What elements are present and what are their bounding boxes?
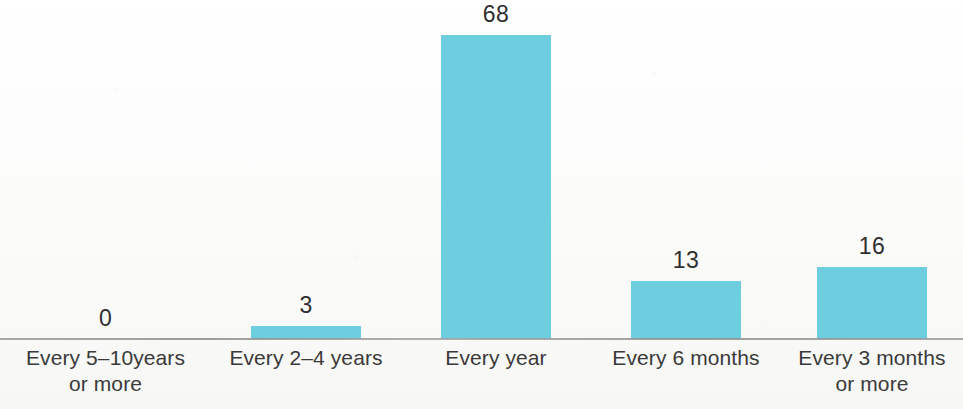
category-label-line2: or more	[0, 371, 211, 397]
category-label: Every 5–10years or more	[0, 345, 211, 397]
bar-chart: 0 3 68 13 16 Every 5–10years or more Eve…	[0, 0, 963, 409]
bar-value-label: 13	[673, 249, 699, 272]
category-label: Every 2–4 years	[211, 345, 401, 371]
bar-value-label: 16	[859, 235, 885, 258]
plot-area: 0 3 68 13 16	[0, 0, 963, 339]
category-label-line1: Every 6 months	[612, 346, 759, 369]
category-label-line1: Every 3 months	[798, 346, 945, 369]
category-label-line1: Every 5–10years	[26, 346, 185, 369]
category-label: Every 3 months or more	[781, 345, 963, 397]
bar-value-label: 0	[99, 307, 112, 330]
bar-slot: 3	[211, 0, 401, 339]
bar-slot: 16	[781, 0, 963, 339]
x-axis-line	[0, 338, 963, 340]
category-label: Every 6 months	[591, 345, 781, 371]
bar[interactable]	[441, 35, 551, 339]
category-label-line2: or more	[781, 371, 963, 397]
bar[interactable]	[817, 267, 927, 339]
bar-slot: 68	[401, 0, 591, 339]
bar-slot: 13	[591, 0, 781, 339]
category-label-line1: Every year	[445, 346, 546, 369]
bar-value-label: 68	[483, 3, 509, 26]
bar-value-label: 3	[299, 294, 312, 317]
category-axis: Every 5–10years or more Every 2–4 years …	[0, 345, 963, 409]
category-label-line1: Every 2–4 years	[229, 346, 382, 369]
category-label: Every year	[401, 345, 591, 371]
bar-slot: 0	[0, 0, 211, 339]
bar[interactable]	[631, 281, 741, 339]
